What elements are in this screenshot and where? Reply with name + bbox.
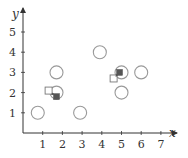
y-tick-label: 5 bbox=[9, 26, 16, 39]
open-square-marker bbox=[110, 75, 117, 82]
circle-marker bbox=[50, 66, 63, 79]
circle-marker bbox=[93, 46, 106, 59]
x-axis-label: x bbox=[169, 126, 176, 140]
circle-marker bbox=[31, 106, 44, 119]
data-markers bbox=[31, 46, 147, 120]
circle-marker bbox=[135, 66, 148, 79]
open-square-marker bbox=[45, 87, 52, 94]
x-tick-label: 5 bbox=[118, 138, 125, 151]
y-tick-label: 4 bbox=[9, 46, 16, 59]
filled-square-marker bbox=[117, 69, 123, 75]
filled-square-marker bbox=[53, 94, 59, 100]
circle-marker bbox=[74, 106, 87, 119]
x-tick-label: 2 bbox=[59, 138, 66, 151]
x-tick-label: 1 bbox=[39, 138, 46, 151]
y-axis-label: y bbox=[11, 7, 19, 21]
y-tick-label: 2 bbox=[9, 87, 16, 100]
x-tick-label: 4 bbox=[98, 138, 105, 151]
circle-marker bbox=[115, 86, 128, 99]
y-tick-label: 1 bbox=[9, 107, 16, 120]
tick-marks: 123456712345 bbox=[9, 26, 164, 151]
y-tick-label: 3 bbox=[9, 66, 16, 79]
scatter-plot: 123456712345 x y bbox=[0, 0, 188, 158]
x-tick-label: 7 bbox=[157, 138, 164, 151]
x-tick-label: 3 bbox=[79, 138, 86, 151]
x-tick-label: 6 bbox=[138, 138, 145, 151]
axes bbox=[23, 8, 177, 133]
